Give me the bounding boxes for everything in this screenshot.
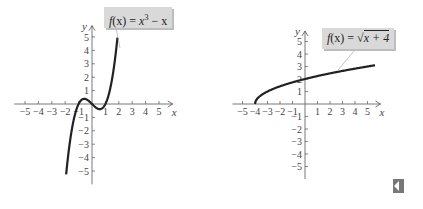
x-tick-label: −4 <box>33 106 44 117</box>
y-tick-label: −4 <box>291 149 302 160</box>
left-function-label: f(x) = x3 − x <box>104 7 172 28</box>
x-tick-label: −4 <box>250 106 261 117</box>
y-tick-label: −5 <box>291 161 302 172</box>
y-tick-label: 5 <box>297 36 302 47</box>
x-tick-label: 3 <box>340 106 345 117</box>
x-tick-label: 5 <box>157 106 162 117</box>
y-tick-label: −1 <box>291 111 302 122</box>
sqrt-icon: √ <box>357 31 364 45</box>
y-tick-label: 1 <box>297 86 302 97</box>
x-tick-label: 2 <box>116 106 121 117</box>
y-tick-label: −2 <box>78 125 89 136</box>
y-tick-label: 5 <box>84 32 89 43</box>
x-tick-label: 4 <box>353 106 358 117</box>
y-tick-label: 3 <box>297 61 302 72</box>
function-curve <box>255 65 375 104</box>
x-tick-label: 4 <box>143 106 148 117</box>
right-label-radicand: x + 4 <box>364 30 389 45</box>
y-tick-label: −4 <box>78 152 89 163</box>
x-tick-label: −5 <box>20 106 31 117</box>
x-tick-label: −5 <box>237 106 248 117</box>
y-tick-label: 2 <box>84 72 89 83</box>
y-axis-label: y <box>294 25 300 37</box>
previous-page-icon[interactable] <box>393 179 404 193</box>
x-tick-label: −3 <box>46 106 57 117</box>
y-tick-label: −2 <box>291 124 302 135</box>
x-tick-label: −2 <box>60 106 71 117</box>
label-leader-line <box>338 50 355 70</box>
y-tick-label: 1 <box>84 85 89 96</box>
x-tick-label: 3 <box>130 106 135 117</box>
y-tick-label: 4 <box>297 49 302 60</box>
right-function-label: f(x) = √x + 4 <box>322 28 394 49</box>
x-tick-label: 5 <box>365 106 370 117</box>
y-tick-label: −3 <box>78 139 89 150</box>
right-label-paren: (x) = <box>330 31 357 45</box>
x-tick-label: −3 <box>262 106 273 117</box>
x-axis-label: x <box>171 106 177 118</box>
x-tick-label: 2 <box>328 106 333 117</box>
cubic-plot: −5−4−3−2−112345−5−4−3−2−112345xy <box>14 20 176 185</box>
x-tick-label: −2 <box>275 106 286 117</box>
left-label-tail: − x <box>148 14 167 28</box>
x-axis-label: x <box>379 106 385 118</box>
y-axis-label: y <box>81 20 87 32</box>
x-tick-label: 1 <box>315 106 320 117</box>
y-tick-label: 4 <box>84 45 89 56</box>
y-tick-label: −1 <box>78 112 89 123</box>
y-tick-label: −3 <box>291 136 302 147</box>
left-label-paren: (x) = <box>112 14 139 28</box>
y-tick-label: 3 <box>84 58 89 69</box>
y-tick-label: −5 <box>78 166 89 177</box>
